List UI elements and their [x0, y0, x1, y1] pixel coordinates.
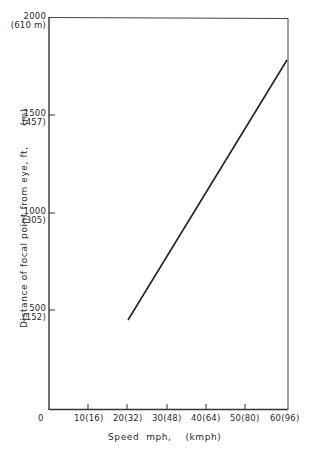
series-line: [128, 60, 287, 320]
y-axis-title: Distance of focal point from eye, ft, (m…: [19, 108, 29, 328]
x-tick-30: 30(48): [152, 413, 181, 423]
top-frame: [49, 18, 288, 19]
x-tick-10: 10(16): [74, 413, 103, 423]
x-ticks: [88, 404, 245, 409]
plot-area: [0, 0, 314, 450]
y-tick-sublabel: (610 m): [2, 21, 46, 30]
x-tick-0: 0: [38, 413, 44, 423]
x-tick-60: 60(96): [270, 413, 299, 423]
y-ticks: [49, 115, 55, 310]
x-tick-40: 40(64): [191, 413, 220, 423]
y-tick-2000: 2000 (610 m): [2, 12, 46, 30]
chart: 2000 (610 m) 1500 (457) 1000 (305) 500 (…: [0, 0, 314, 450]
x-tick-20: 20(32): [113, 413, 142, 423]
x-tick-50: 50(80): [230, 413, 259, 423]
x-axis-title: Speed mph, (kmph): [108, 432, 221, 442]
